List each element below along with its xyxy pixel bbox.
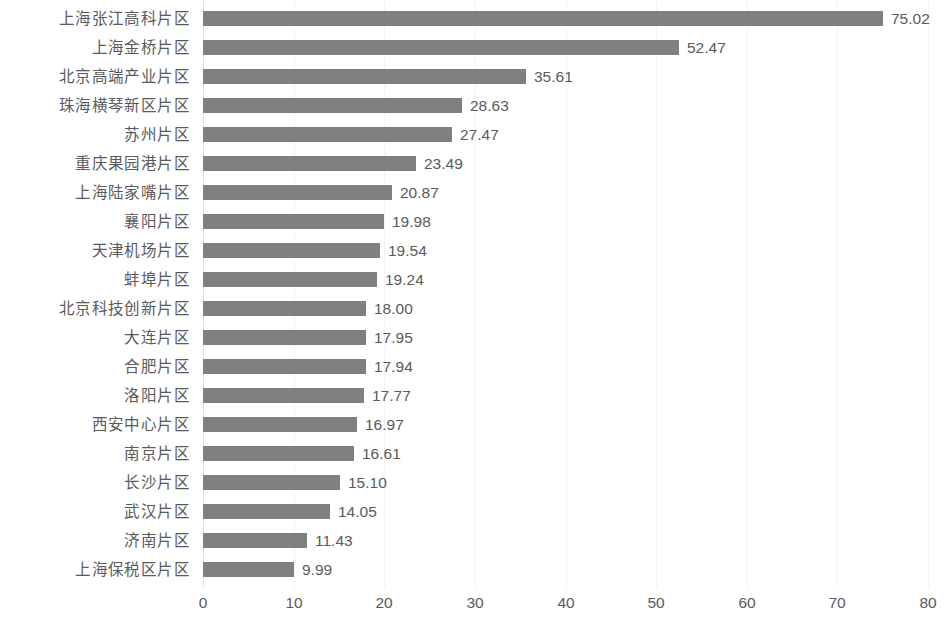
chart-row: 北京科技创新片区18.00	[0, 294, 950, 323]
x-tick-label: 50	[636, 594, 676, 612]
bar-value-label: 16.97	[365, 410, 404, 439]
category-label: 上海陆家嘴片区	[0, 178, 190, 207]
category-label: 大连片区	[0, 323, 190, 352]
bar-value-label: 19.54	[388, 236, 427, 265]
bar-value-label: 17.94	[374, 352, 413, 381]
category-label: 重庆果园港片区	[0, 149, 190, 178]
bar	[203, 272, 377, 287]
chart-row: 襄阳片区19.98	[0, 207, 950, 236]
x-tick-label: 30	[455, 594, 495, 612]
chart-row: 上海金桥片区52.47	[0, 33, 950, 62]
bar-value-label: 11.43	[315, 526, 353, 555]
horizontal-bar-chart: 上海张江高科片区75.02上海金桥片区52.47北京高端产业片区35.61珠海横…	[0, 0, 950, 627]
x-tick-label: 60	[727, 594, 767, 612]
bar	[203, 156, 416, 171]
x-tick-label: 70	[817, 594, 857, 612]
bar	[203, 359, 366, 374]
bar-value-label: 52.47	[687, 33, 726, 62]
x-tick-label: 20	[364, 594, 404, 612]
x-tick-label: 0	[183, 594, 223, 612]
bar	[203, 417, 357, 432]
category-label: 长沙片区	[0, 468, 190, 497]
bar	[203, 330, 366, 345]
bar	[203, 533, 307, 548]
chart-row: 天津机场片区19.54	[0, 236, 950, 265]
bar-value-label: 28.63	[470, 91, 509, 120]
chart-row: 大连片区17.95	[0, 323, 950, 352]
bar-value-label: 35.61	[534, 62, 573, 91]
category-label: 武汉片区	[0, 497, 190, 526]
category-label: 上海保税区片区	[0, 555, 190, 584]
bar	[203, 504, 330, 519]
bar-value-label: 18.00	[374, 294, 413, 323]
chart-row: 西安中心片区16.97	[0, 410, 950, 439]
bar	[203, 69, 526, 84]
chart-plot-area: 上海张江高科片区75.02上海金桥片区52.47北京高端产业片区35.61珠海横…	[0, 0, 950, 588]
x-tick-label: 80	[908, 594, 948, 612]
chart-row: 上海保税区片区9.99	[0, 555, 950, 584]
bar-value-label: 23.49	[424, 149, 463, 178]
bar-value-label: 16.61	[362, 439, 401, 468]
bar	[203, 40, 679, 55]
bar	[203, 11, 883, 26]
category-label: 济南片区	[0, 526, 190, 555]
bar	[203, 185, 392, 200]
bar-value-label: 75.02	[891, 4, 930, 33]
category-label: 南京片区	[0, 439, 190, 468]
category-label: 苏州片区	[0, 120, 190, 149]
bar-value-label: 14.05	[338, 497, 377, 526]
bar	[203, 127, 452, 142]
x-tick-label: 40	[546, 594, 586, 612]
chart-row: 南京片区16.61	[0, 439, 950, 468]
chart-row: 北京高端产业片区35.61	[0, 62, 950, 91]
bar	[203, 98, 462, 113]
category-label: 襄阳片区	[0, 207, 190, 236]
bar-value-label: 19.24	[385, 265, 424, 294]
category-label: 西安中心片区	[0, 410, 190, 439]
category-label: 北京高端产业片区	[0, 62, 190, 91]
bar-value-label: 20.87	[400, 178, 439, 207]
bar	[203, 301, 366, 316]
bar-value-label: 9.99	[302, 555, 332, 584]
bar	[203, 475, 340, 490]
chart-row: 珠海横琴新区片区28.63	[0, 91, 950, 120]
category-label: 上海金桥片区	[0, 33, 190, 62]
bar	[203, 562, 294, 577]
bar-value-label: 17.77	[372, 381, 411, 410]
chart-row: 蚌埠片区19.24	[0, 265, 950, 294]
chart-row: 重庆果园港片区23.49	[0, 149, 950, 178]
bar-value-label: 19.98	[392, 207, 431, 236]
category-label: 上海张江高科片区	[0, 4, 190, 33]
bar	[203, 446, 354, 461]
category-label: 洛阳片区	[0, 381, 190, 410]
chart-row: 长沙片区15.10	[0, 468, 950, 497]
chart-row: 上海陆家嘴片区20.87	[0, 178, 950, 207]
category-label: 天津机场片区	[0, 236, 190, 265]
x-axis: 01020304050607080	[0, 588, 950, 627]
bar	[203, 214, 384, 229]
bar-value-label: 27.47	[460, 120, 499, 149]
chart-row: 合肥片区17.94	[0, 352, 950, 381]
chart-row: 济南片区11.43	[0, 526, 950, 555]
chart-row: 武汉片区14.05	[0, 497, 950, 526]
bar	[203, 388, 364, 403]
bar-value-label: 15.10	[348, 468, 387, 497]
bar-value-label: 17.95	[374, 323, 413, 352]
chart-row: 洛阳片区17.77	[0, 381, 950, 410]
category-label: 珠海横琴新区片区	[0, 91, 190, 120]
chart-row: 上海张江高科片区75.02	[0, 4, 950, 33]
category-label: 蚌埠片区	[0, 265, 190, 294]
chart-row: 苏州片区27.47	[0, 120, 950, 149]
category-label: 北京科技创新片区	[0, 294, 190, 323]
x-tick-label: 10	[274, 594, 314, 612]
category-label: 合肥片区	[0, 352, 190, 381]
bar	[203, 243, 380, 258]
